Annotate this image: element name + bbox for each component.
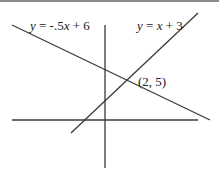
graph-figure: y = -.5x + 6 y = x + 3 (2, 5)	[0, 0, 219, 179]
line2-label: y = x + 3	[135, 18, 183, 33]
line-y-neg-half-x-plus-6	[12, 25, 210, 120]
line1-label: y = -.5x + 6	[28, 18, 90, 33]
intersection-label: (2, 5)	[138, 74, 166, 89]
